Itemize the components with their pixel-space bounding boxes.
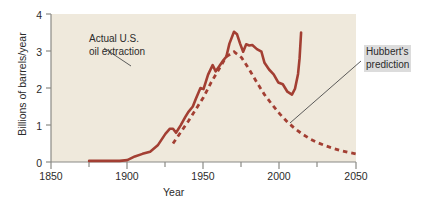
- x-axis-title: Year: [163, 186, 184, 198]
- annotation-hubbert-line2: prediction: [366, 59, 409, 72]
- leader-line-hubbert: [290, 61, 361, 123]
- y-tick-label-4: 4: [28, 9, 42, 21]
- annotation-hubbert-prediction: Hubbert's prediction: [364, 45, 411, 72]
- y-tick-label-2: 2: [28, 83, 42, 95]
- y-axis-title: Billions of barrels/year: [16, 18, 28, 150]
- annotation-actual-extraction: Actual U.S. oil extraction: [89, 33, 145, 58]
- series-hubberts-prediction: [173, 52, 356, 154]
- annotation-actual-line2: oil extraction: [89, 46, 145, 59]
- annotation-actual-line1: Actual U.S.: [89, 33, 145, 46]
- x-tick-marks: [51, 162, 356, 169]
- x-tick-label-1900: 1900: [107, 170, 147, 182]
- x-tick-label-2000: 2000: [259, 170, 299, 182]
- x-tick-label-2050: 2050: [336, 170, 376, 182]
- y-tick-label-0: 0: [28, 157, 42, 169]
- chart-figure: 4 3 2 1 0 1850 1900 1950 2000 2050 Billi…: [0, 0, 428, 209]
- y-tick-label-3: 3: [28, 46, 42, 58]
- x-tick-label-1950: 1950: [183, 170, 223, 182]
- y-tick-marks: [46, 14, 51, 162]
- annotation-hubbert-line1: Hubbert's: [366, 46, 409, 59]
- x-tick-label-1850: 1850: [31, 170, 71, 182]
- y-tick-label-1: 1: [28, 120, 42, 132]
